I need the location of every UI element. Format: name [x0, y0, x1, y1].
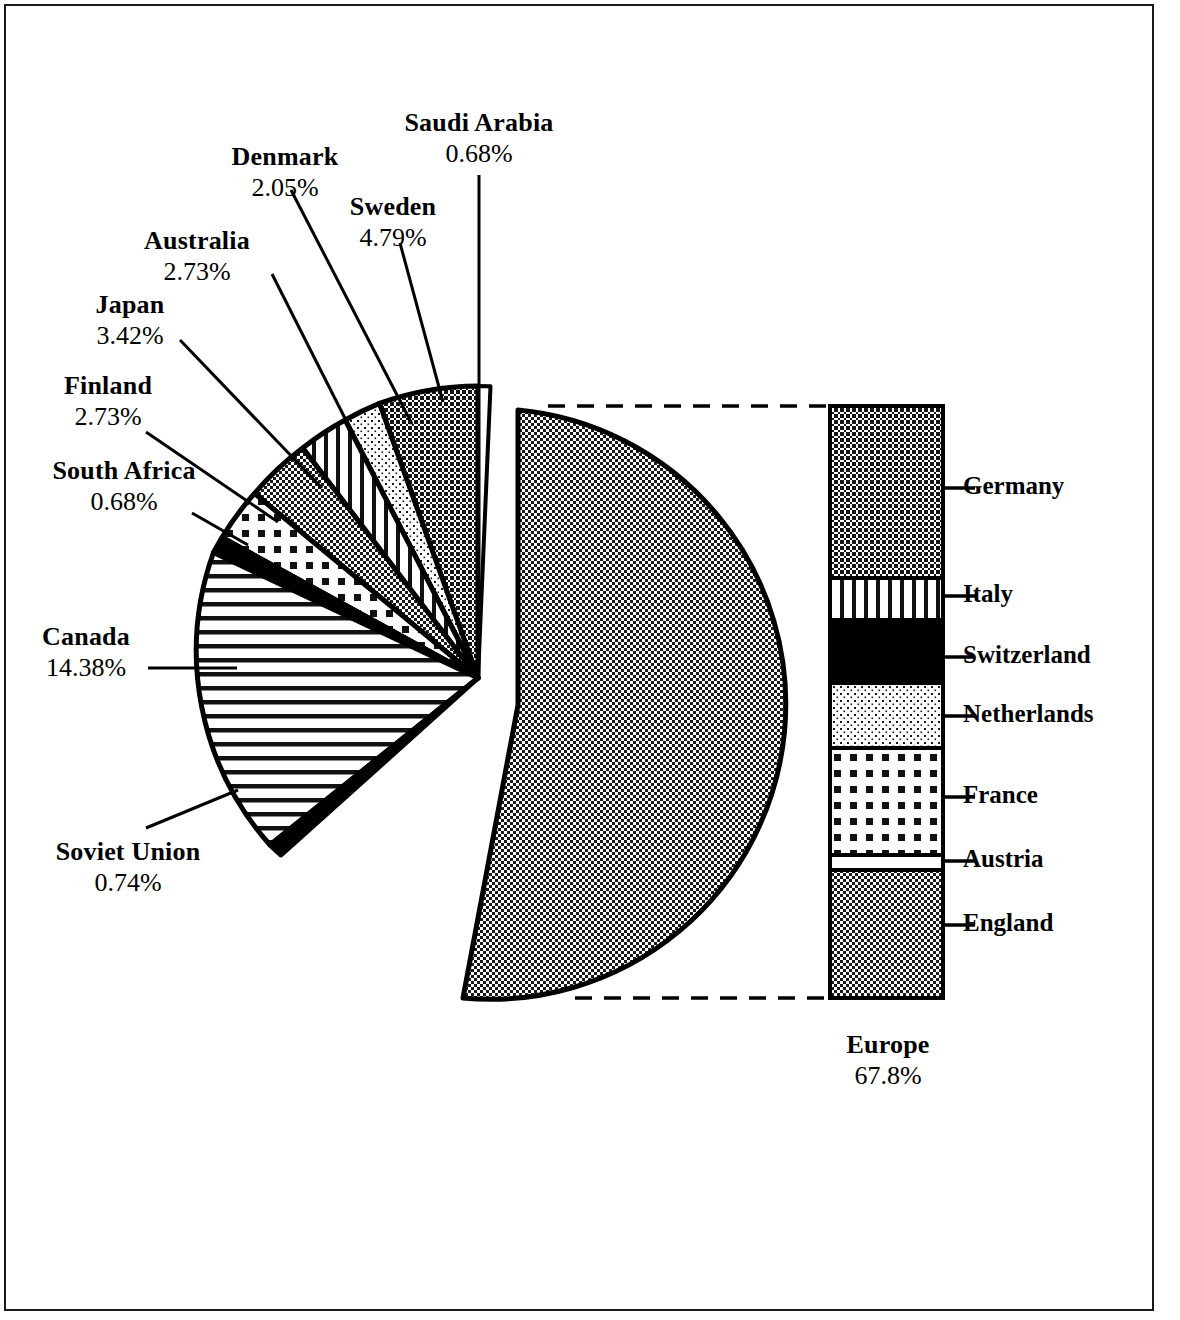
pie-label-soviet-union-name: Soviet Union: [56, 837, 201, 868]
chart-page: Saudi Arabia 0.68% Denmark 2.05% Sweden …: [0, 0, 1180, 1320]
bar-segment-switzerland[interactable]: [830, 620, 943, 683]
leader-japan: [180, 340, 322, 488]
pie-label-europe: Europe 67.8%: [846, 1030, 929, 1091]
pie-label-japan-name: Japan: [96, 290, 165, 321]
leader-sweden: [400, 243, 443, 402]
legend-item-switzerland[interactable]: Switzerland: [963, 641, 1091, 669]
pie-label-denmark-name: Denmark: [232, 142, 339, 173]
legend-item-austria[interactable]: Austria: [963, 845, 1044, 873]
pie-slice-europe[interactable]: [463, 410, 786, 999]
pie-label-sweden-value: 4.79%: [350, 223, 436, 254]
bar-segment-france[interactable]: [830, 748, 943, 855]
pie-label-south-africa-value: 0.68%: [52, 487, 195, 518]
pie-label-japan-value: 3.42%: [96, 321, 165, 352]
pie-label-south-africa: South Africa 0.68%: [52, 456, 195, 517]
pie-label-soviet-union: Soviet Union 0.74%: [56, 837, 201, 898]
legend-item-germany[interactable]: Germany: [963, 472, 1064, 500]
legend-item-england[interactable]: England: [963, 909, 1053, 937]
pie-label-denmark: Denmark 2.05%: [232, 142, 339, 203]
pie-label-australia-name: Australia: [144, 226, 250, 257]
legend-item-netherlands[interactable]: Netherlands: [963, 700, 1094, 728]
bar-segment-germany[interactable]: [830, 406, 943, 578]
pie-label-south-africa-name: South Africa: [52, 456, 195, 487]
pie-label-finland-name: Finland: [64, 371, 152, 402]
bar-segment-netherlands[interactable]: [830, 683, 943, 748]
legend-item-italy[interactable]: Italy: [963, 580, 1013, 608]
bar-segment-italy[interactable]: [830, 578, 943, 620]
pie-label-soviet-union-value: 0.74%: [56, 868, 201, 899]
bar-segment-england[interactable]: [830, 870, 943, 998]
pie-label-australia-value: 2.73%: [144, 257, 250, 288]
pie-label-saudi-arabia: Saudi Arabia 0.68%: [404, 108, 553, 169]
pie-label-finland-value: 2.73%: [64, 402, 152, 433]
legend-item-france[interactable]: France: [963, 781, 1038, 809]
pie-label-saudi-arabia-value: 0.68%: [404, 139, 553, 170]
pie-label-canada-value: 14.38%: [42, 653, 130, 684]
pie-label-sweden: Sweden 4.79%: [350, 192, 436, 253]
pie-label-europe-name: Europe: [846, 1030, 929, 1061]
europe-breakdown-bar[interactable]: [830, 406, 943, 998]
pie-label-denmark-value: 2.05%: [232, 173, 339, 204]
pie-label-australia: Australia 2.73%: [144, 226, 250, 287]
leader-soviet-union: [146, 790, 238, 828]
pie-label-japan: Japan 3.42%: [96, 290, 165, 351]
pie-label-europe-value: 67.8%: [846, 1061, 929, 1092]
pie-label-saudi-arabia-name: Saudi Arabia: [404, 108, 553, 139]
pie-label-canada: Canada 14.38%: [42, 622, 130, 683]
pie-label-finland: Finland 2.73%: [64, 371, 152, 432]
bar-segment-austria[interactable]: [830, 855, 943, 870]
pie-label-canada-name: Canada: [42, 622, 130, 653]
pie-label-sweden-name: Sweden: [350, 192, 436, 223]
